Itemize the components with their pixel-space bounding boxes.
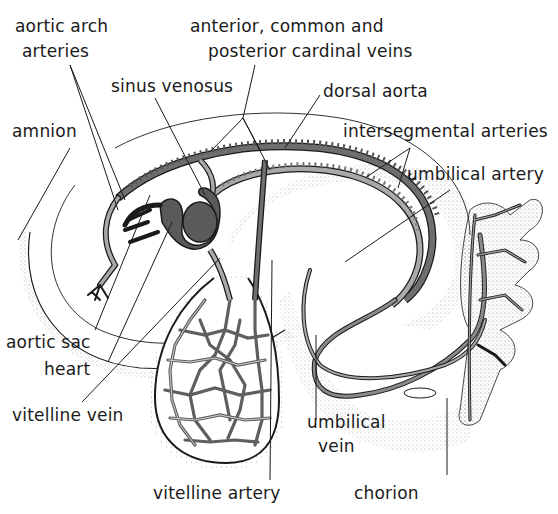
heart xyxy=(160,188,220,249)
yolk-sac xyxy=(148,275,285,470)
label-sinus-venosus: sinus venosus xyxy=(111,77,233,96)
label-umbilical-vein-2: vein xyxy=(318,437,355,456)
label-aortic-arch-arteries-2: arteries xyxy=(22,42,89,61)
aortic-arches xyxy=(88,198,160,300)
label-heart: heart xyxy=(44,360,90,379)
chorionic-villi xyxy=(404,199,542,425)
label-umbilical-artery: umbilical artery xyxy=(407,165,544,184)
label-vitelline-vein: vitelline vein xyxy=(12,406,124,425)
embryonic-circulation-diagram xyxy=(0,0,558,514)
label-cardinal-veins-1: anterior, common and xyxy=(190,17,384,36)
label-cardinal-veins-2: posterior cardinal veins xyxy=(208,42,413,61)
label-intersegmental-arteries: intersegmental arteries xyxy=(343,122,548,141)
label-aortic-arch-arteries-1: aortic arch xyxy=(15,17,108,36)
label-amnion: amnion xyxy=(12,122,77,141)
label-aortic-sac: aortic sac xyxy=(6,333,91,352)
label-chorion: chorion xyxy=(354,484,419,503)
label-umbilical-vein-1: umbilical xyxy=(307,413,386,432)
label-dorsal-aorta: dorsal aorta xyxy=(323,82,428,101)
label-vitelline-artery: vitelline artery xyxy=(153,484,281,503)
